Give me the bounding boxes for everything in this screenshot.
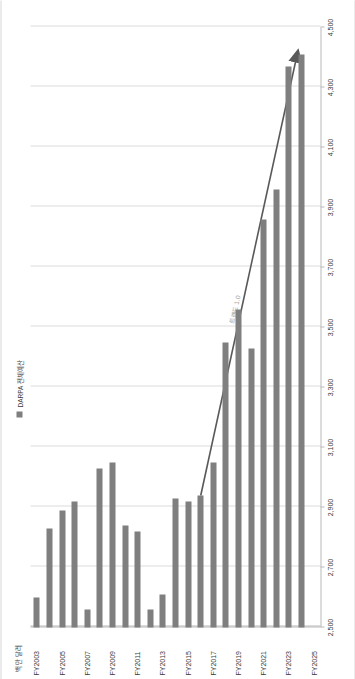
category-axis-label: FY2009	[108, 650, 115, 675]
bar	[285, 66, 291, 627]
value-axis-label: 3,700	[326, 258, 333, 276]
axis-tick	[320, 566, 324, 567]
bar	[222, 342, 228, 627]
bar	[147, 609, 153, 627]
bar	[33, 597, 39, 627]
value-axis-label: 4,100	[326, 138, 333, 156]
bar	[185, 501, 191, 627]
value-axis-label: 3,900	[326, 198, 333, 216]
legend-label: DARPA 전체예산	[14, 360, 24, 407]
axis-tick	[320, 506, 324, 507]
axis-tick	[320, 626, 324, 627]
category-axis-label: FY2015	[184, 650, 191, 675]
category-axis-label: FY2011	[134, 651, 141, 675]
value-axis-label: 3,500	[326, 318, 333, 336]
bar	[159, 594, 165, 627]
category-axis-label: FY2003	[33, 650, 40, 675]
value-axis-label: 2,700	[326, 558, 333, 576]
bar	[210, 462, 216, 627]
category-axis-label: FY2007	[83, 650, 90, 675]
bar	[59, 510, 65, 627]
category-axis-label: FY2021	[260, 650, 267, 675]
axis-tick	[320, 446, 324, 447]
bar	[109, 462, 115, 627]
chart-figure: 백만 달러 DARPA 전체예산 트렌드 1.0 2,5002,7002,900…	[0, 0, 355, 679]
gridline	[30, 25, 320, 26]
axis-tick	[320, 26, 324, 27]
bar	[273, 189, 279, 627]
bar	[71, 501, 77, 627]
bar	[172, 498, 178, 627]
category-axis-label: FY2017	[209, 650, 216, 675]
axis-tick	[320, 206, 324, 207]
value-axis-label: 3,100	[326, 438, 333, 456]
value-axis-label: 3,300	[326, 378, 333, 396]
category-axis-label: FY2005	[58, 650, 65, 675]
bar	[197, 495, 203, 627]
value-axis-title: 백만 달러	[12, 645, 22, 671]
bar	[235, 309, 241, 627]
bar	[248, 348, 254, 627]
chart-legend: DARPA 전체예산	[14, 360, 24, 417]
category-axis-label: FY2019	[235, 650, 242, 675]
bar	[298, 54, 304, 627]
bar	[122, 525, 128, 627]
value-axis-label: 2,900	[326, 498, 333, 516]
value-axis-label: 4,300	[326, 78, 333, 96]
bar	[134, 531, 140, 627]
page-rule-top	[0, 0, 1, 679]
axis-tick	[320, 146, 324, 147]
axis-tick	[320, 326, 324, 327]
bar	[260, 219, 266, 627]
category-axis-label: FY2025	[310, 650, 317, 675]
legend-swatch-icon	[16, 411, 22, 417]
axis-tick	[320, 386, 324, 387]
bar	[96, 468, 102, 627]
axis-tick	[320, 266, 324, 267]
value-axis-label: 2,500	[326, 618, 333, 636]
category-axis-label: FY2023	[285, 650, 292, 675]
bar	[46, 528, 52, 627]
value-axis-label: 4,500	[326, 18, 333, 36]
bar	[84, 609, 90, 627]
axis-tick	[320, 86, 324, 87]
category-axis-label: FY2013	[159, 650, 166, 675]
